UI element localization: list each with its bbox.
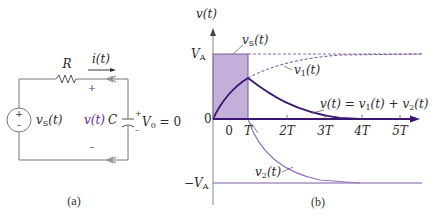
v2-annotation: v2(t) xyxy=(255,165,281,180)
tick-4T: 4T xyxy=(353,124,371,138)
capacitor-label: C xyxy=(108,113,117,127)
tick-T: T xyxy=(244,124,253,138)
va-label: VA xyxy=(191,47,206,62)
source-plus: + xyxy=(15,109,23,119)
zero-label: 0 xyxy=(204,112,212,126)
resistor-icon xyxy=(56,75,76,83)
voltage-plus: + xyxy=(88,82,96,93)
chart-caption: (b) xyxy=(311,195,325,209)
v1-annotation: v1(t) xyxy=(294,63,320,78)
tick-2T: 2T xyxy=(278,124,296,138)
response-chart xyxy=(210,28,422,205)
voltage-label: v(t) xyxy=(84,113,105,127)
resistor-label: R xyxy=(61,57,71,71)
source-label: vS(t) xyxy=(36,113,63,128)
tick-3T: 3T xyxy=(317,124,334,138)
x-axis-arrow-icon xyxy=(410,116,420,123)
circuit-caption: (a) xyxy=(67,194,80,208)
y-axis-label: v(t) xyxy=(196,7,217,21)
voltage-minus: – xyxy=(90,141,95,152)
sum-annotation: v(t) = v1(t) + v2(t) xyxy=(320,97,429,112)
vs-annotation: vS(t) xyxy=(242,33,269,48)
v2-leader xyxy=(282,167,293,172)
source-minus: – xyxy=(17,120,22,130)
neg-va-label: −VA xyxy=(184,176,209,191)
y-axis-arrow-icon xyxy=(210,28,216,36)
tick-5T: 5T xyxy=(392,124,409,138)
capacitor-plus: + xyxy=(135,109,142,118)
current-label: i(t) xyxy=(92,52,110,66)
capacitor-minus: – xyxy=(135,125,139,134)
tick-0: 0 xyxy=(225,124,233,138)
v1-curve xyxy=(248,54,422,78)
initial-voltage-label: V0 = 0 xyxy=(142,115,181,130)
v1-leader xyxy=(284,66,292,70)
t-leader xyxy=(251,123,258,133)
figure-canvas: + – R i(t) vS(t) + v(t) – C + – V0 = 0 (… xyxy=(0,0,432,215)
